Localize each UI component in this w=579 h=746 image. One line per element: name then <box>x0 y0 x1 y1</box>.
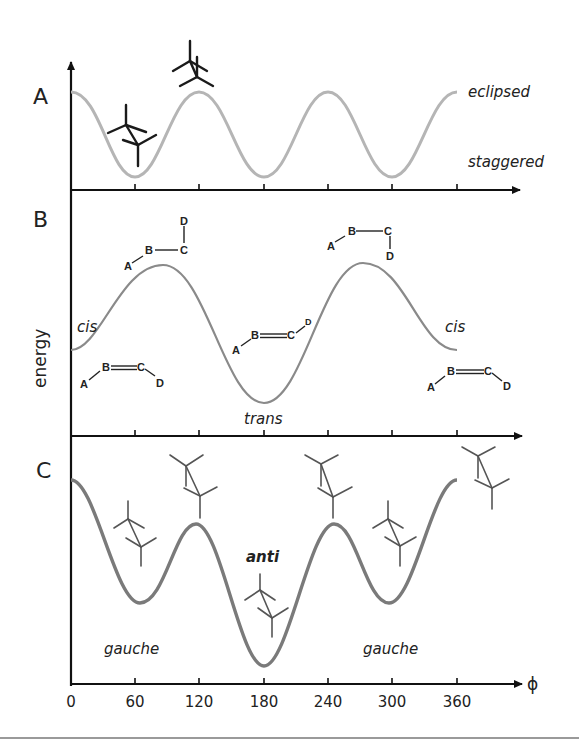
molecule-twisted-right: A B C D <box>327 225 394 262</box>
curve-b <box>71 263 457 403</box>
annotation-trans: trans <box>244 410 283 428</box>
sawhorse-anti-icon <box>245 574 288 637</box>
y-axis-label: energy <box>30 329 50 388</box>
svg-text:B: B <box>102 361 110 373</box>
annotation-gauche-left: gauche <box>104 640 159 658</box>
sawhorse-gauche-right-icon <box>373 501 416 566</box>
svg-text:D: D <box>180 215 188 227</box>
svg-text:A: A <box>327 240 335 252</box>
svg-text:C: C <box>137 361 145 373</box>
panel-a-label: A <box>33 84 48 109</box>
svg-text:A: A <box>124 260 132 272</box>
sawhorse-eclipsed-c2-icon <box>305 455 352 518</box>
svg-text:A: A <box>232 344 240 356</box>
svg-text:C: C <box>180 244 188 256</box>
sawhorse-eclipsed-c3-icon <box>462 447 509 509</box>
svg-text:D: D <box>156 377 164 389</box>
panel-a: A eclipsed staggered <box>33 41 545 190</box>
svg-text:60: 60 <box>125 693 144 711</box>
annotation-staggered: staggered <box>468 153 545 171</box>
panel-b-label: B <box>33 207 48 232</box>
svg-text:D: D <box>503 380 511 392</box>
curve-a <box>71 92 457 177</box>
svg-text:D: D <box>386 250 394 262</box>
svg-text:C: C <box>484 365 492 377</box>
svg-text:120: 120 <box>185 693 214 711</box>
svg-text:D: D <box>305 317 312 327</box>
footer-divider <box>0 737 579 739</box>
molecule-trans: A B C D <box>232 317 312 356</box>
panel-c: C 0 60 120 180 240 300 360 ϕ anti gauche… <box>36 447 538 711</box>
svg-text:300: 300 <box>378 693 407 711</box>
svg-text:180: 180 <box>250 693 279 711</box>
svg-text:B: B <box>447 365 455 377</box>
annotation-eclipsed: eclipsed <box>468 83 530 101</box>
sawhorse-eclipsed-c1-icon <box>170 455 217 518</box>
x-tick-labels: 0 60 120 180 240 300 360 <box>66 693 471 711</box>
molecule-cis-left: A B C D <box>80 361 164 390</box>
energy-diagram-figure: energy A eclipsed staggered <box>0 0 579 746</box>
molecule-cis-right: A B C D <box>427 365 511 393</box>
sawhorse-gauche-left-icon <box>114 501 156 566</box>
annotation-cis-right: cis <box>445 318 465 336</box>
svg-text:A: A <box>427 381 435 393</box>
svg-text:B: B <box>348 225 356 237</box>
annotation-anti: anti <box>246 548 280 566</box>
svg-text:0: 0 <box>66 693 76 711</box>
curve-c <box>71 480 457 666</box>
svg-text:B: B <box>251 329 259 341</box>
panel-b: B cis trans cis A B C D <box>33 207 522 436</box>
annotation-gauche-right: gauche <box>363 640 418 658</box>
svg-text:C: C <box>287 329 295 341</box>
annotation-cis-left: cis <box>77 318 97 336</box>
svg-text:360: 360 <box>443 693 472 711</box>
molecule-twisted-left: A B C D <box>124 215 188 272</box>
sawhorse-eclipsed-icon <box>173 41 213 86</box>
svg-text:240: 240 <box>314 693 343 711</box>
x-axis-symbol: ϕ <box>527 674 538 694</box>
panel-c-label: C <box>36 458 51 483</box>
svg-text:A: A <box>80 378 88 390</box>
svg-text:C: C <box>384 225 392 237</box>
svg-text:B: B <box>145 244 153 256</box>
